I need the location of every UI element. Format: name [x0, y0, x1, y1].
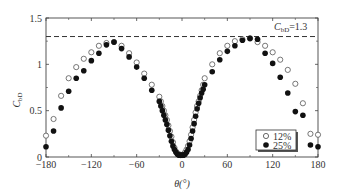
data-point-filled [111, 39, 117, 45]
data-point-filled [96, 50, 102, 56]
legend-filled-circle-icon [263, 142, 269, 148]
data-point-filled [73, 75, 79, 81]
x-tick-label: 120 [265, 159, 280, 170]
data-point-open [270, 50, 275, 55]
data-point-filled [141, 75, 147, 81]
data-point-filled [225, 49, 231, 55]
data-point-filled [191, 121, 197, 127]
data-point-open [232, 39, 237, 44]
x-tick-label: −60 [129, 159, 145, 170]
legend-label-25: 25% [273, 140, 291, 151]
data-point-open [315, 132, 320, 137]
data-point-filled [188, 136, 194, 142]
data-point-open [202, 76, 207, 81]
ref-annotation-value: =1.3 [289, 21, 307, 32]
data-point-open [66, 76, 71, 81]
data-point-open [263, 43, 268, 48]
data-point-filled [300, 113, 306, 119]
data-point-filled [308, 142, 314, 148]
data-point-filled [149, 87, 155, 93]
data-point-filled [193, 113, 199, 119]
data-point-open [59, 93, 64, 98]
data-point-filled [247, 36, 253, 42]
data-point-open [51, 116, 56, 121]
data-point-filled [315, 144, 321, 150]
data-point-open [278, 57, 283, 62]
data-point-open [96, 43, 101, 48]
data-point-filled [194, 106, 200, 112]
reference-annotation: CbD=1.3 [274, 21, 307, 34]
y-tick-label: 1.5 [30, 13, 43, 24]
data-point-filled [262, 50, 268, 56]
data-point-filled [81, 68, 87, 74]
data-point-filled [66, 88, 72, 94]
x-tick-label: 0 [180, 159, 185, 170]
data-point-filled [89, 58, 95, 64]
data-point-open [89, 50, 94, 55]
data-point-open [300, 101, 305, 106]
data-point-open [285, 67, 290, 72]
data-point-filled [58, 105, 64, 111]
data-point-open [293, 81, 298, 86]
data-point-filled [209, 69, 215, 75]
y-axis-title-sub: bD [16, 92, 24, 101]
data-point-filled [293, 109, 299, 115]
data-point-filled [255, 37, 261, 43]
data-point-filled [232, 43, 238, 49]
data-point-open [74, 65, 79, 70]
data-point-filled [167, 133, 173, 139]
data-point-open [210, 62, 215, 67]
data-point-filled [187, 142, 193, 148]
data-point-filled [202, 82, 208, 88]
data-point-filled [190, 128, 196, 134]
data-point-filled [51, 128, 57, 134]
y-tick-label: 1 [37, 59, 42, 70]
data-point-filled [119, 46, 125, 52]
y-tick-label: 0.5 [30, 105, 43, 116]
data-point-open [217, 51, 222, 56]
legend-open-circle-icon [263, 133, 268, 138]
data-point-filled [166, 127, 172, 133]
x-tick-label: 180 [311, 159, 326, 170]
data-point-filled [270, 61, 276, 67]
chart: −180−120−6006012018000.511.5 CbD θ(°) Cb… [0, 0, 340, 194]
y-tick-label: 0 [37, 152, 42, 163]
x-tick-label: 60 [222, 159, 232, 170]
data-point-filled [217, 57, 223, 63]
data-point-filled [196, 100, 202, 106]
y-axis-title: CbD [11, 92, 24, 107]
data-point-open [149, 82, 154, 87]
data-point-open [81, 56, 86, 61]
data-point-filled [104, 42, 110, 48]
x-axis-title: θ(°) [174, 178, 190, 190]
data-point-filled [240, 37, 246, 43]
data-point-open [134, 60, 139, 65]
data-point-open [142, 71, 147, 76]
x-tick-label: −120 [81, 159, 102, 170]
data-point-filled [43, 144, 49, 150]
data-point-open [308, 131, 313, 136]
ref-annotation-sub: bD [281, 26, 290, 34]
data-point-filled [285, 90, 291, 96]
data-point-filled [126, 54, 132, 60]
data-point-open [225, 43, 230, 48]
data-point-filled [164, 122, 170, 128]
legend: 12% 25% [256, 130, 298, 152]
data-point-filled [134, 64, 140, 70]
data-point-filled [277, 75, 283, 81]
data-point-open [43, 133, 48, 138]
